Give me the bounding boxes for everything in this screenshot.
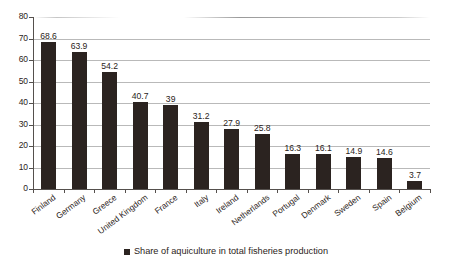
bar-group[interactable]: 16.3	[277, 17, 308, 189]
y-tick-label: 50	[6, 77, 28, 86]
bar[interactable]	[72, 52, 87, 189]
legend-square-marker-icon	[124, 249, 130, 255]
y-tick-label: 60	[6, 55, 28, 64]
bar-group[interactable]: 39	[155, 17, 186, 189]
bar-group[interactable]: 25.8	[247, 17, 278, 189]
bar-group[interactable]: 14.6	[369, 17, 400, 189]
bar[interactable]	[163, 105, 178, 189]
bar[interactable]	[102, 72, 117, 189]
y-tick-label: 40	[6, 98, 28, 107]
bar[interactable]	[194, 122, 209, 189]
x-tick-mark	[430, 189, 431, 193]
bar[interactable]	[224, 129, 239, 189]
bar[interactable]	[407, 181, 422, 189]
bar-group[interactable]: 14.9	[338, 17, 369, 189]
y-tick-label: 80	[6, 12, 28, 21]
bar[interactable]	[133, 102, 148, 190]
bar-group[interactable]: 54.2	[94, 17, 125, 189]
bar-group[interactable]: 63.9	[64, 17, 95, 189]
y-tick-label: 30	[6, 120, 28, 129]
y-tick-label: 0	[6, 184, 28, 193]
bar[interactable]	[377, 158, 392, 189]
bar[interactable]	[41, 42, 56, 189]
chart-legend: Share of aquiculture in total fisheries …	[0, 246, 452, 257]
gridline	[33, 189, 430, 190]
y-tick-label: 20	[6, 141, 28, 150]
bar[interactable]	[346, 157, 361, 189]
bar-group[interactable]: 27.9	[216, 17, 247, 189]
plot-area: 68.663.954.240.73931.227.925.816.316.114…	[33, 17, 430, 189]
bar[interactable]	[285, 154, 300, 189]
bar[interactable]	[255, 134, 270, 189]
bar[interactable]	[316, 154, 331, 189]
legend-item-label: Share of aquiculture in total fisheries …	[134, 246, 328, 257]
y-tick-label: 70	[6, 34, 28, 43]
bar-value-label: 3.7	[394, 170, 435, 180]
y-tick-label: 10	[6, 163, 28, 172]
bar-chart: 01020304050607080 68.663.954.240.73931.2…	[0, 0, 452, 270]
bar-group[interactable]: 31.2	[186, 17, 217, 189]
bar-group[interactable]: 16.1	[308, 17, 339, 189]
bar-group[interactable]: 3.7	[399, 17, 430, 189]
x-axis-labels: FinlandGermanyGreeceUnited KingdomFrance…	[33, 193, 430, 243]
